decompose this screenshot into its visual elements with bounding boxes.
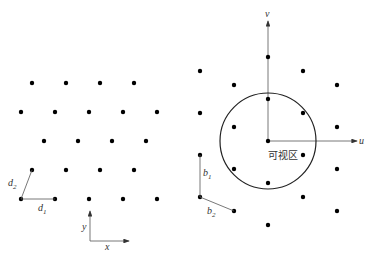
label-b1: b1 <box>203 167 212 181</box>
lattice-point <box>121 110 125 114</box>
vector-b2 <box>200 197 234 211</box>
lattice-point <box>335 125 339 129</box>
visible-region-label: 可视区 <box>268 149 298 161</box>
lattice-point <box>335 83 339 87</box>
lattice-point <box>232 83 236 87</box>
lattice-point <box>87 110 91 114</box>
lattice-point <box>64 81 68 85</box>
axis-u-label: u <box>359 135 364 146</box>
lattice-point <box>301 111 305 115</box>
vector-d2 <box>21 170 32 199</box>
lattice-point <box>98 168 102 172</box>
axis-x-label: x <box>104 241 110 252</box>
lattice-point <box>155 110 159 114</box>
lattice-point <box>132 168 136 172</box>
lattice-point <box>232 125 236 129</box>
lattice-point <box>301 69 305 73</box>
lattice-point <box>87 197 91 201</box>
lattice-point <box>121 197 125 201</box>
lattice-point <box>144 139 148 143</box>
lattice-point <box>155 197 159 201</box>
lattice-point <box>301 195 305 199</box>
lattice-point <box>198 111 202 115</box>
lattice-point <box>266 223 270 227</box>
label-d1: d1 <box>38 202 47 216</box>
lattice-point <box>53 110 57 114</box>
lattice-point <box>266 181 270 185</box>
lattice-point <box>335 209 339 213</box>
lattice-point <box>301 153 305 157</box>
label-d2: d2 <box>8 177 17 191</box>
lattice-point <box>98 81 102 85</box>
lattice-point <box>335 167 339 171</box>
lattice-point <box>110 139 114 143</box>
lattice-point <box>198 69 202 73</box>
lattice-point <box>76 139 80 143</box>
lattice-point <box>266 139 270 143</box>
axis-v-label: v <box>265 8 270 19</box>
lattice-diagram: d2 d1 y x v u 可视区 b1 b2 <box>0 0 375 262</box>
left-lattice <box>19 81 159 201</box>
lattice-point <box>30 81 34 85</box>
label-b2: b2 <box>207 205 216 219</box>
axis-y-label: y <box>81 221 87 232</box>
lattice-point <box>19 110 23 114</box>
lattice-point <box>42 139 46 143</box>
lattice-point <box>232 167 236 171</box>
lattice-point <box>132 81 136 85</box>
lattice-point <box>64 168 68 172</box>
lattice-point <box>266 97 270 101</box>
lattice-point <box>266 55 270 59</box>
